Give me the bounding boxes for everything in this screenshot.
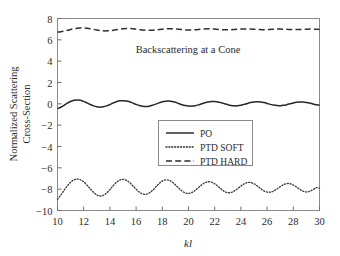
y-tick-label: 6 [47,35,52,46]
x-tick-label: 14 [105,216,116,227]
y-tick-label: −8 [41,184,52,195]
y-tick-label: −4 [41,142,53,153]
legend-label-ptd-hard: PTD HARD [200,157,247,167]
x-axis-title: kl [184,237,192,249]
x-tick-label: 28 [288,216,299,227]
series-line-po [58,100,320,109]
x-tick-label: 24 [236,216,247,227]
figure-container: 1012141618202224262830 −10−8−6−4−202468 … [0,0,340,256]
backscattering-chart: 1012141618202224262830 −10−8−6−4−202468 … [0,0,340,256]
legend-label-ptd-soft: PTD SOFT [200,143,244,153]
x-axis-tick-labels: 1012141618202224262830 [52,216,325,227]
x-tick-label: 20 [183,216,194,227]
x-tick-label: 10 [52,216,63,227]
x-tick-label: 30 [314,216,325,227]
x-tick-label: 18 [157,216,168,227]
y-tick-label: 8 [47,14,52,25]
x-tick-label: 22 [209,216,220,227]
y-axis-ticks [58,19,62,211]
y-tick-label: 0 [47,99,52,110]
y-tick-label: 4 [47,56,53,67]
y-axis-tick-labels: −10−8−6−4−202468 [36,14,53,217]
x-tick-label: 12 [78,216,89,227]
x-tick-label: 16 [131,216,142,227]
x-tick-label: 26 [262,216,273,227]
y-tick-label: −6 [41,163,52,174]
legend: POPTD SOFTPTD HARD [159,121,253,167]
x-axis-ticks [58,207,320,211]
y-tick-label: −10 [36,206,52,217]
series-line-ptd-soft [58,179,320,199]
y-axis-title-line1: Normalized Scattering [8,66,19,162]
y-axis-title-line2: Cross-Section [21,84,32,144]
legend-label-po: PO [200,129,212,139]
chart-title: Backscattering at a Cone [136,44,241,55]
y-tick-label: 2 [47,78,52,89]
series-line-ptd-hard [58,28,320,32]
y-tick-label: −2 [41,120,52,131]
